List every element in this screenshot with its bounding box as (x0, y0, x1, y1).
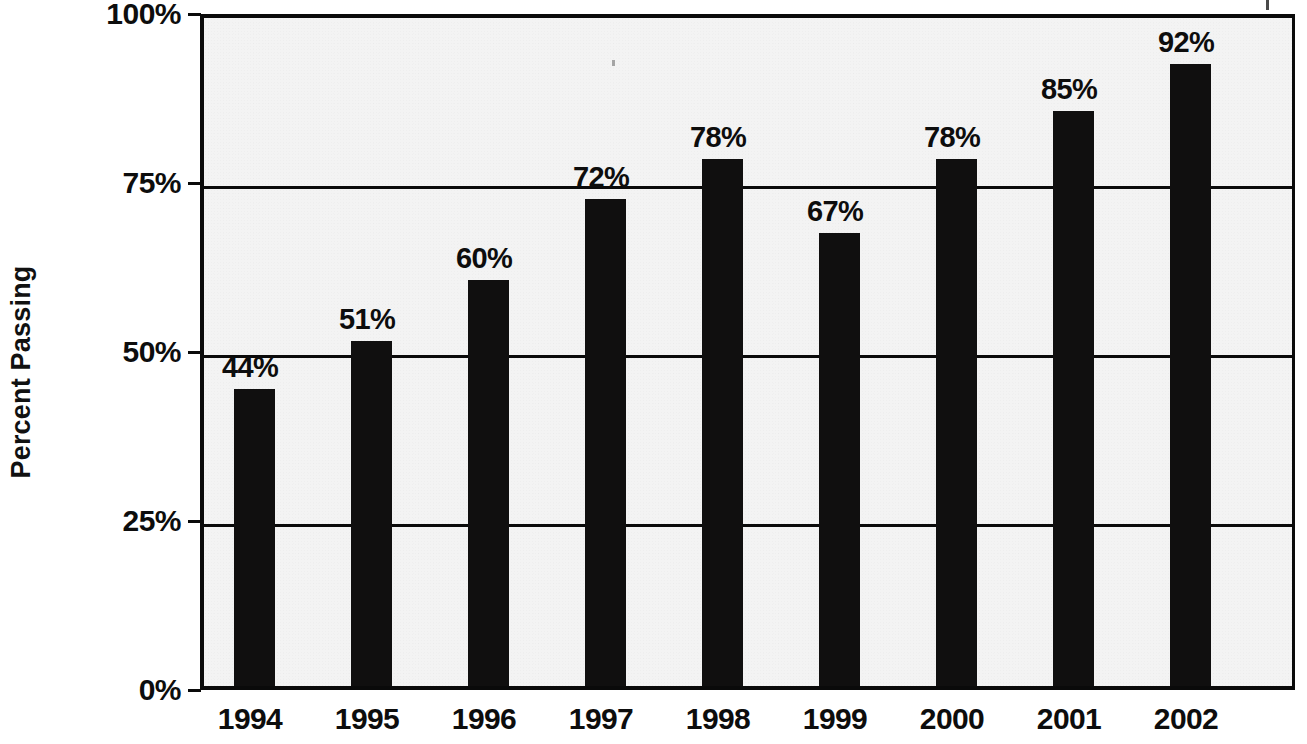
x-tick-label: 2001 (1009, 704, 1129, 734)
bar (234, 389, 275, 686)
y-axis-title: Percent Passing (0, 0, 42, 744)
plot-area (200, 14, 1295, 690)
bar-value-label: 85% (1009, 75, 1129, 104)
bar-value-label: 78% (892, 123, 1012, 152)
bar (819, 233, 860, 686)
bar-value-label: 51% (307, 305, 427, 334)
y-tick-label: 25% (41, 506, 181, 536)
bar-value-label: 78% (658, 123, 778, 152)
x-tick-label: 1995 (307, 704, 427, 734)
bar-value-label: 72% (541, 163, 661, 192)
x-tick-label: 1997 (541, 704, 661, 734)
y-tick-label: 75% (41, 168, 181, 198)
bar (468, 280, 509, 686)
scan-speck-icon (1266, 0, 1269, 10)
bar (1170, 64, 1211, 686)
x-tick-label: 2000 (892, 704, 1012, 734)
bar (936, 159, 977, 686)
bar-value-label: 60% (424, 244, 544, 273)
bar (585, 199, 626, 686)
y-tick-label: 0% (41, 675, 181, 705)
gridline (204, 186, 1292, 189)
x-tick-label: 1998 (658, 704, 778, 734)
x-tick-label: 1999 (775, 704, 895, 734)
y-tick-label: 100% (41, 0, 181, 29)
x-tick-label: 1996 (424, 704, 544, 734)
bar-value-label: 92% (1126, 28, 1246, 57)
bar (1053, 111, 1094, 686)
y-tick-label: 50% (41, 337, 181, 367)
bar (702, 159, 743, 686)
scan-speck-secondary-icon (612, 60, 615, 66)
bar-value-label: 67% (775, 197, 895, 226)
x-tick-label: 2002 (1126, 704, 1246, 734)
bar-value-label: 44% (190, 353, 310, 382)
x-tick-label: 1994 (190, 704, 310, 734)
bar (351, 341, 392, 686)
bar-chart-figure: Percent Passing 0%25%50%75%100% 44%51%60… (0, 0, 1307, 744)
